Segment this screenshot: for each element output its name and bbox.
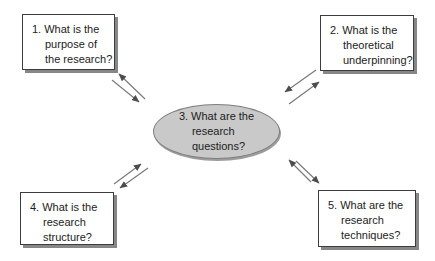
- arrow-bottomright-to-center: [289, 160, 311, 182]
- node-box-theoretical-underpinning: 2. What is the theoretical underpinning?: [320, 15, 414, 71]
- node-text-line: 2. What is the: [330, 23, 411, 38]
- arrow-center-to-bottomright: [296, 161, 319, 183]
- node-box-research-structure: 4. What is the research structure?: [20, 192, 114, 245]
- node-text-line: questions?: [179, 139, 254, 154]
- arrow-topright-to-center: [285, 70, 316, 92]
- node-text-line: underpinning?: [330, 53, 411, 68]
- node-text-line: techniques?: [328, 228, 413, 243]
- node-text-line: research: [30, 215, 111, 230]
- node-ellipse-research-questions: 3. What are the research questions?: [153, 104, 280, 159]
- node-text-line: the research?: [32, 52, 112, 67]
- node-text-line: theoretical: [330, 38, 411, 53]
- ellipse-text-block: 3. What are the research questions?: [179, 109, 254, 154]
- node-text-line: research: [328, 213, 413, 228]
- node-text-line: research: [179, 124, 254, 139]
- node-box-purpose: 1. What is the purpose of the research?: [22, 14, 115, 70]
- node-box-research-techniques: 5. What are the research techniques?: [318, 190, 416, 247]
- arrow-center-to-topleft: [119, 74, 145, 99]
- node-text-line: 5. What are the: [328, 198, 413, 213]
- arrow-bottomleft-to-center: [114, 164, 141, 184]
- diagram-canvas: 1. What is the purpose of the research? …: [0, 0, 435, 261]
- node-text-line: structure?: [30, 230, 111, 245]
- arrow-center-to-bottomleft: [120, 168, 148, 188]
- node-text-line: 4. What is the: [30, 200, 111, 215]
- node-text-line: purpose of: [32, 37, 112, 52]
- node-text-line: 3. What are the: [179, 109, 254, 124]
- arrow-topleft-to-center: [112, 80, 139, 102]
- node-text-line: 1. What is the: [32, 22, 112, 37]
